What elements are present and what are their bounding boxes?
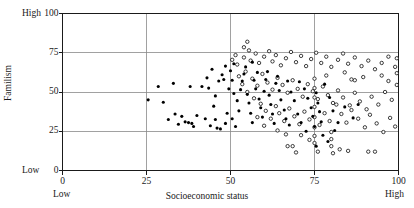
data-point-filled (283, 109, 286, 112)
data-point-open (373, 150, 376, 153)
x-low-label: Low (53, 190, 70, 200)
data-point-open (306, 82, 309, 85)
data-point-filled (184, 120, 187, 123)
data-point-open (274, 53, 277, 56)
data-point-filled (229, 69, 232, 72)
data-point-open (274, 104, 277, 107)
data-point-open (338, 148, 341, 151)
data-point-open (393, 125, 396, 128)
data-point-open (289, 50, 292, 53)
data-point-open (350, 78, 353, 81)
data-point-open (301, 95, 304, 98)
data-point-filled (167, 118, 170, 121)
data-point-open (296, 87, 299, 90)
data-point-open (353, 91, 356, 94)
y-tick-label: 100 (35, 9, 59, 19)
data-point-filled (224, 122, 227, 125)
data-point-filled (357, 103, 360, 106)
data-point-filled (246, 93, 249, 96)
data-point-filled (289, 90, 292, 93)
data-point-filled (311, 115, 314, 118)
data-point-filled (303, 87, 306, 90)
data-point-open (330, 65, 333, 68)
data-point-open (390, 98, 393, 101)
data-point-filled (192, 125, 195, 128)
data-point-open (362, 75, 365, 78)
data-point-open (313, 134, 316, 137)
data-point-filled (252, 79, 255, 82)
data-point-filled (258, 98, 261, 101)
data-point-filled (263, 90, 266, 93)
data-point-filled (249, 112, 252, 115)
data-point-open (313, 105, 316, 108)
data-point-open (271, 60, 274, 63)
data-point-open (395, 83, 398, 86)
data-point-open (254, 52, 257, 55)
data-point-open (330, 144, 333, 147)
data-point-filled (278, 89, 281, 92)
data-point-open (382, 130, 385, 133)
data-point-open (388, 116, 391, 119)
data-point-open (318, 123, 321, 126)
data-point-filled (336, 121, 339, 124)
x-tick-label: 100 (385, 177, 413, 187)
data-point-filled (219, 127, 222, 130)
data-point-filled (328, 96, 331, 99)
data-point-filled (242, 72, 245, 75)
data-point-filled (315, 145, 318, 148)
data-point-filled (174, 112, 177, 115)
data-point-open (247, 49, 250, 52)
data-point-filled (276, 75, 279, 78)
data-point-open (320, 61, 323, 64)
data-point-open (328, 119, 331, 122)
data-point-filled (244, 65, 247, 68)
data-point-filled (261, 116, 264, 119)
data-point-open (237, 75, 240, 78)
data-point-open (335, 103, 338, 106)
x-tick-label: 50 (217, 177, 245, 187)
data-point-open (325, 55, 328, 58)
data-point-filled (264, 78, 267, 81)
data-point-open (242, 46, 245, 49)
data-point-filled (306, 97, 309, 100)
data-point-filled (162, 101, 165, 104)
data-point-open (313, 86, 316, 89)
x-high-label: High (385, 190, 404, 200)
data-point-open (316, 97, 319, 100)
data-points-filled (147, 61, 360, 148)
data-point-filled (226, 112, 229, 115)
data-point-open (294, 151, 297, 154)
data-point-open (236, 63, 239, 66)
y-tick-label: 25 (35, 126, 59, 136)
data-point-filled (352, 116, 355, 119)
data-point-filled (318, 110, 321, 113)
data-point-open (353, 56, 356, 59)
data-point-filled (343, 105, 346, 108)
data-point-open (262, 124, 265, 127)
data-point-filled (216, 127, 219, 130)
data-point-open (267, 49, 270, 52)
data-point-filled (333, 129, 336, 132)
data-point-filled (288, 123, 291, 126)
data-point-filled (227, 87, 230, 90)
data-point-filled (237, 109, 240, 112)
data-point-open (360, 64, 363, 67)
data-point-filled (296, 112, 299, 115)
y-tick-label: 50 (35, 87, 59, 97)
data-point-filled (279, 98, 282, 101)
data-point-open (308, 118, 311, 121)
data-point-filled (254, 87, 257, 90)
data-point-open (276, 129, 279, 132)
data-point-open (293, 115, 296, 118)
data-point-open (383, 90, 386, 93)
data-point-open (291, 79, 294, 82)
gridlines (63, 14, 399, 171)
data-point-open (348, 104, 351, 107)
data-point-filled (232, 92, 235, 95)
data-point-open (246, 40, 249, 43)
data-point-open (340, 112, 343, 115)
data-point-filled (298, 80, 301, 83)
data-point-open (241, 82, 244, 85)
data-point-open (330, 130, 333, 133)
data-point-open (313, 77, 316, 80)
